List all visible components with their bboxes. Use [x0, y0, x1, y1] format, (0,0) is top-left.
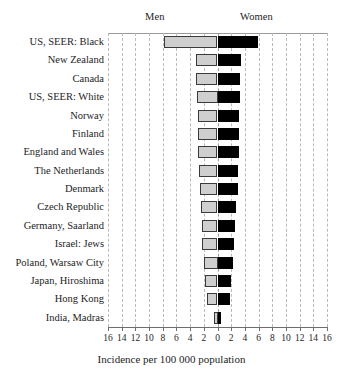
axis-tick-label: 12: [131, 333, 141, 343]
axis-tick-label: 2: [201, 333, 206, 343]
bar-row: [108, 217, 327, 235]
axis-tick: [149, 327, 150, 331]
axis-tick: [286, 327, 287, 331]
category-label: England and Wales: [0, 146, 104, 158]
bar-row: [108, 88, 327, 106]
bar-men: [199, 165, 217, 177]
axis-tick: [245, 327, 246, 331]
bar-women: [218, 128, 240, 140]
axis-tick: [135, 327, 136, 331]
axis-tick-label: 10: [144, 333, 154, 343]
category-label: The Netherlands: [0, 165, 104, 177]
bar-women: [218, 201, 236, 213]
axis-tick: [327, 327, 328, 331]
axis-tick: [218, 327, 219, 331]
bar-men: [204, 257, 218, 269]
axis-tick: [122, 327, 123, 331]
category-label: Japan, Hiroshima: [0, 275, 104, 287]
bar-women: [218, 110, 240, 122]
bar-row: [108, 125, 327, 143]
bar-men: [164, 36, 217, 48]
bar-row: [108, 254, 327, 272]
bar-men: [205, 275, 217, 287]
category-label: New Zealand: [0, 54, 104, 66]
bar-row: [108, 70, 327, 88]
bar-row: [108, 290, 327, 308]
axis-tick-label: 4: [188, 333, 193, 343]
axis-tick: [163, 327, 164, 331]
axis-tick: [272, 327, 273, 331]
bar-women: [218, 293, 230, 305]
women-group-label: Women: [240, 11, 273, 22]
bar-women: [218, 238, 234, 250]
bar-women: [218, 312, 221, 324]
bar-women: [218, 257, 233, 269]
bar-men: [207, 293, 218, 305]
category-label: Denmark: [0, 183, 104, 195]
axis-tick-label: 12: [295, 333, 305, 343]
category-label: Hong Kong: [0, 293, 104, 305]
bar-women: [218, 73, 241, 85]
bar-men: [202, 238, 217, 250]
axis-tick: [259, 327, 260, 331]
bar-men: [198, 146, 217, 158]
axis-tick-label: 16: [103, 333, 113, 343]
men-group-label: Men: [145, 11, 165, 22]
bar-women: [218, 91, 241, 103]
bar-men: [202, 220, 218, 232]
axis-tick: [204, 327, 205, 331]
axis-tick: [176, 327, 177, 331]
axis-tick-label: 8: [160, 333, 165, 343]
gridline: [327, 33, 328, 327]
bar-women: [218, 36, 258, 48]
bar-men: [201, 201, 217, 213]
axis-tick-label: 14: [309, 333, 319, 343]
bar-row: [108, 309, 327, 327]
axis-tick-label: 2: [229, 333, 234, 343]
axis-tick-label: 10: [281, 333, 291, 343]
axis-tick: [231, 327, 232, 331]
axis-tick: [313, 327, 314, 331]
bar-men: [196, 54, 218, 66]
bar-women: [218, 183, 239, 195]
category-label: Norway: [0, 110, 104, 122]
bar-women: [218, 54, 241, 66]
category-label: Poland, Warsaw City: [0, 257, 104, 269]
bar-women: [218, 275, 232, 287]
bar-men: [198, 110, 218, 122]
bar-row: [108, 198, 327, 216]
axis-tick-label: 4: [243, 333, 248, 343]
bar-men: [197, 91, 218, 103]
bar-men: [200, 183, 218, 195]
axis-tick-label: 8: [270, 333, 275, 343]
axis-tick: [108, 327, 109, 331]
axis-tick: [190, 327, 191, 331]
axis-tick-label: 0: [215, 333, 220, 343]
category-label: India, Madras: [0, 312, 104, 324]
bar-row: [108, 107, 327, 125]
category-label: Germany, Saarland: [0, 220, 104, 232]
plot-area: [108, 33, 327, 327]
x-axis-title: Incidence per 100 000 population: [0, 353, 343, 365]
bar-row: [108, 51, 327, 69]
bar-women: [218, 220, 235, 232]
category-label: US, SEER: White: [0, 91, 104, 103]
bar-women: [218, 165, 239, 177]
category-label: Finland: [0, 128, 104, 140]
bar-men: [198, 128, 218, 140]
bar-row: [108, 180, 327, 198]
bar-row: [108, 272, 327, 290]
bar-row: [108, 143, 327, 161]
bar-row: [108, 162, 327, 180]
axis-tick: [300, 327, 301, 331]
axis-tick-label: 6: [256, 333, 261, 343]
category-label: Canada: [0, 73, 104, 85]
bar-row: [108, 33, 327, 51]
bar-women: [218, 146, 239, 158]
category-label: Czech Republic: [0, 201, 104, 213]
bar-men: [196, 73, 217, 85]
incidence-bar-chart: Men Women US, SEER: BlackNew ZealandCana…: [0, 0, 343, 382]
category-label: Israel: Jews: [0, 238, 104, 250]
bar-row: [108, 235, 327, 253]
axis-tick-label: 6: [174, 333, 179, 343]
